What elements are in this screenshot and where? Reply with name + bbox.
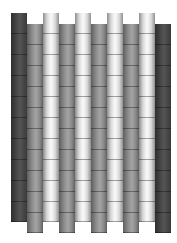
strip-segment bbox=[59, 150, 75, 171]
strip-segment bbox=[91, 129, 107, 150]
strip-column-5 bbox=[75, 13, 91, 222]
strip-segment bbox=[43, 13, 59, 34]
strip-segment bbox=[107, 181, 123, 202]
strip-segment bbox=[155, 150, 171, 171]
strip-segment bbox=[75, 13, 91, 34]
strip-segment bbox=[91, 24, 107, 45]
strip-segment bbox=[75, 160, 91, 181]
strip-segment bbox=[107, 76, 123, 97]
weave-diagram bbox=[0, 0, 177, 243]
strip-segment bbox=[139, 55, 155, 76]
strip-segment bbox=[91, 150, 107, 171]
strip-segment bbox=[91, 45, 107, 66]
strip-segment bbox=[123, 108, 139, 129]
strip-segment bbox=[139, 13, 155, 34]
strip-segment bbox=[43, 55, 59, 76]
strip-segment bbox=[155, 45, 171, 66]
strip-column-1 bbox=[11, 13, 27, 222]
strip-segment bbox=[11, 76, 27, 97]
strip-column-3 bbox=[43, 13, 59, 222]
strip-segment bbox=[123, 87, 139, 108]
strip-segment bbox=[123, 213, 139, 233]
strip-segment bbox=[43, 76, 59, 97]
strip-column-7 bbox=[107, 13, 123, 222]
strip-segment bbox=[27, 24, 43, 45]
strip-segment bbox=[27, 192, 43, 213]
strip-segment bbox=[155, 192, 171, 213]
strip-segment bbox=[75, 34, 91, 55]
strip-segment bbox=[59, 192, 75, 213]
strip-column-2 bbox=[27, 24, 43, 233]
strip-segment bbox=[59, 87, 75, 108]
strip-segment bbox=[139, 202, 155, 222]
strip-segment bbox=[27, 87, 43, 108]
strip-segment bbox=[27, 171, 43, 192]
strip-segment bbox=[27, 45, 43, 66]
strip-segment bbox=[123, 171, 139, 192]
strip-segment bbox=[43, 34, 59, 55]
strip-segment bbox=[11, 34, 27, 55]
strip-segment bbox=[27, 150, 43, 171]
strip-segment bbox=[123, 129, 139, 150]
strip-segment bbox=[75, 97, 91, 118]
strip-segment bbox=[59, 66, 75, 87]
strip-segment bbox=[75, 118, 91, 139]
strip-segment bbox=[155, 129, 171, 150]
strip-segment bbox=[43, 202, 59, 222]
strip-column-9 bbox=[139, 13, 155, 222]
strip-segment bbox=[11, 55, 27, 76]
strip-segment bbox=[139, 181, 155, 202]
strip-segment bbox=[107, 13, 123, 34]
strip-segment bbox=[123, 66, 139, 87]
strip-segment bbox=[11, 139, 27, 160]
strip-segment bbox=[107, 118, 123, 139]
strip-segment bbox=[155, 213, 171, 233]
strip-segment bbox=[75, 202, 91, 222]
strip-segment bbox=[155, 108, 171, 129]
strip-segment bbox=[43, 160, 59, 181]
strip-segment bbox=[91, 213, 107, 233]
strip-segment bbox=[123, 150, 139, 171]
strip-segment bbox=[139, 139, 155, 160]
strip-segment bbox=[155, 66, 171, 87]
strip-segment bbox=[43, 181, 59, 202]
strip-segment bbox=[27, 108, 43, 129]
strip-segment bbox=[107, 97, 123, 118]
strip-segment bbox=[155, 87, 171, 108]
strip-segment bbox=[11, 160, 27, 181]
strip-segment bbox=[155, 171, 171, 192]
strip-segment bbox=[43, 97, 59, 118]
strip-segment bbox=[155, 24, 171, 45]
strip-segment bbox=[75, 76, 91, 97]
strip-segment bbox=[139, 76, 155, 97]
strip-segment bbox=[107, 55, 123, 76]
strip-segment bbox=[107, 202, 123, 222]
strip-segment bbox=[139, 160, 155, 181]
strip-segment bbox=[91, 87, 107, 108]
strip-segment bbox=[123, 192, 139, 213]
strip-segment bbox=[75, 139, 91, 160]
strip-segment bbox=[59, 171, 75, 192]
strip-segment bbox=[91, 171, 107, 192]
strip-segment bbox=[107, 139, 123, 160]
strip-segment bbox=[107, 160, 123, 181]
strip-segment bbox=[11, 118, 27, 139]
strip-segment bbox=[59, 24, 75, 45]
strip-column-4 bbox=[59, 24, 75, 233]
strip-segment bbox=[59, 129, 75, 150]
strip-segment bbox=[27, 66, 43, 87]
strip-segment bbox=[91, 192, 107, 213]
strip-segment bbox=[11, 181, 27, 202]
strip-segment bbox=[91, 108, 107, 129]
strip-segment bbox=[59, 45, 75, 66]
strip-segment bbox=[75, 181, 91, 202]
strip-segment bbox=[139, 34, 155, 55]
strip-segment bbox=[123, 45, 139, 66]
strip-segment bbox=[43, 139, 59, 160]
strip-segment bbox=[107, 34, 123, 55]
strip-segment bbox=[11, 97, 27, 118]
strip-column-10 bbox=[155, 24, 171, 233]
strip-segment bbox=[43, 118, 59, 139]
strip-segment bbox=[11, 13, 27, 34]
strip-segment bbox=[27, 129, 43, 150]
